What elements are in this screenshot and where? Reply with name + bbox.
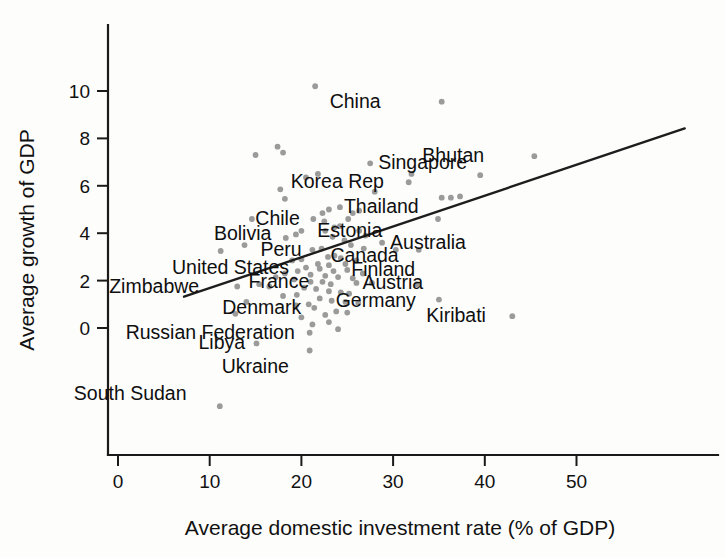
country-label-thailand: Thailand (344, 195, 419, 217)
country-label-denmark: Denmark (222, 296, 301, 318)
data-point (509, 313, 515, 319)
country-label-china: China (330, 90, 381, 112)
data-point (457, 194, 463, 200)
data-point (249, 216, 255, 222)
x-tick-label-30: 30 (383, 471, 404, 492)
data-point (311, 305, 317, 311)
y-tick-label-10: 10 (69, 81, 90, 102)
country-label-france: France (249, 270, 310, 292)
x-axis-ticks: 01020304050 (113, 455, 587, 492)
country-label-kiribati: Kiribati (426, 304, 486, 326)
data-point (317, 266, 323, 272)
data-point (435, 216, 441, 222)
data-point (335, 274, 341, 280)
country-label-korea-rep: Korea Rep (291, 170, 384, 192)
data-point (406, 179, 412, 185)
data-point (436, 297, 442, 303)
country-label-australia: Australia (390, 231, 466, 253)
data-point (217, 403, 223, 409)
data-point (367, 160, 373, 166)
data-point (439, 99, 445, 105)
x-tick-label-20: 20 (291, 471, 312, 492)
data-point (275, 144, 281, 150)
data-point (320, 210, 326, 216)
data-point (280, 150, 286, 156)
data-point (306, 301, 312, 307)
data-point (253, 152, 259, 158)
x-tick-label-10: 10 (199, 471, 220, 492)
y-tick-label-4: 4 (79, 223, 90, 244)
country-label-group: ChinaSingaporeBhutanKorea RepThailandChi… (74, 90, 486, 405)
country-label-south-sudan: South Sudan (74, 382, 187, 404)
country-label-ukraine: Ukraine (222, 355, 289, 377)
country-label-germany: Germany (336, 289, 416, 311)
data-point (277, 186, 283, 192)
country-label-estonia: Estonia (317, 219, 382, 241)
country-label-zimbabwe: Zimbabwe (109, 275, 199, 297)
data-point (439, 195, 445, 201)
data-point (307, 348, 313, 354)
y-tick-label-0: 0 (79, 318, 90, 339)
data-point (320, 279, 326, 285)
data-point (293, 231, 299, 237)
data-point (317, 295, 323, 301)
data-point (218, 248, 224, 254)
data-point (310, 322, 316, 328)
data-point (326, 288, 332, 294)
scatter-plot-svg: 01020304050 0246810 ChinaSingaporeBhutan… (0, 0, 725, 558)
data-point (531, 153, 537, 159)
y-axis-ticks: 0246810 (69, 81, 108, 339)
data-point (234, 284, 240, 290)
data-point (307, 330, 313, 336)
x-tick-label-40: 40 (474, 471, 495, 492)
country-label-bhutan: Bhutan (422, 144, 484, 166)
country-label-libya: Libya (198, 331, 245, 353)
data-point (322, 273, 328, 279)
data-point (337, 204, 343, 210)
data-point (329, 298, 335, 304)
data-point (326, 207, 332, 213)
x-axis-title: Average domestic investment rate (% of G… (185, 516, 615, 539)
data-point (477, 172, 483, 178)
data-point (310, 216, 316, 222)
data-point (282, 196, 288, 202)
data-point (322, 312, 328, 318)
x-tick-label-0: 0 (113, 471, 124, 492)
y-tick-label-8: 8 (79, 128, 90, 149)
x-tick-label-50: 50 (566, 471, 587, 492)
y-tick-label-6: 6 (79, 176, 90, 197)
data-point (326, 319, 332, 325)
y-tick-label-2: 2 (79, 271, 90, 292)
data-point (331, 268, 337, 274)
data-point (312, 83, 318, 89)
data-point (313, 286, 319, 292)
data-point (328, 281, 334, 287)
y-axis-title: Average growth of GDP (15, 129, 38, 350)
data-point (335, 326, 341, 332)
data-point (448, 195, 454, 201)
chart-figure: 01020304050 0246810 ChinaSingaporeBhutan… (0, 0, 725, 558)
data-point (354, 280, 360, 286)
data-point (344, 267, 350, 273)
